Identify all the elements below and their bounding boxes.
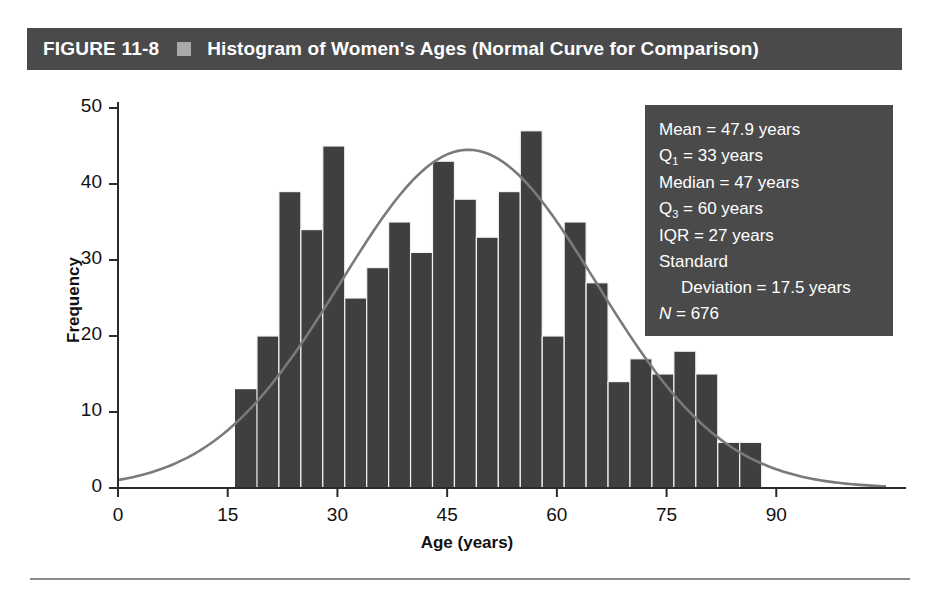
histogram-bar <box>520 131 542 488</box>
stat-n: N = 676 <box>659 301 893 327</box>
histogram-bar <box>389 222 411 488</box>
histogram-bar <box>542 336 564 488</box>
histogram-bar <box>433 161 455 488</box>
histogram-bar <box>411 252 433 488</box>
stat-standard: Standard <box>659 249 893 275</box>
x-axis-tick-label: 75 <box>647 504 687 526</box>
histogram-bar <box>608 382 630 488</box>
figure-title: Histogram of Women's Ages (Normal Curve … <box>207 38 759 60</box>
stat-mean: Mean = 47.9 years <box>659 117 893 143</box>
histogram-bar <box>345 298 367 488</box>
x-axis-tick-label: 45 <box>427 504 467 526</box>
figure-container: FIGURE 11-8 Histogram of Women's Ages (N… <box>0 0 934 596</box>
x-axis-tick-label: 90 <box>756 504 796 526</box>
stat-median: Median = 47 years <box>659 170 893 196</box>
y-axis-tick-label: 20 <box>58 323 102 345</box>
stat-q1-value: = 33 years <box>678 146 763 165</box>
stat-q3-value: = 60 years <box>678 199 763 218</box>
histogram-bar <box>630 359 652 488</box>
histogram-bar <box>498 192 520 488</box>
histogram-bar <box>257 336 279 488</box>
histogram-bar <box>323 146 345 488</box>
histogram-bar <box>301 230 323 488</box>
histogram-bar <box>586 283 608 488</box>
figure-number: FIGURE 11-8 <box>43 38 159 60</box>
figure-header: FIGURE 11-8 Histogram of Women's Ages (N… <box>27 28 902 70</box>
histogram-bar <box>476 237 498 488</box>
histogram-bar <box>454 199 476 488</box>
histogram-bar <box>740 442 762 488</box>
footer-divider <box>30 578 910 580</box>
y-axis-tick-label: 30 <box>58 247 102 269</box>
x-axis-tick-label: 0 <box>98 504 138 526</box>
y-axis-tick-label: 10 <box>58 399 102 421</box>
y-axis-tick-label: 0 <box>58 475 102 497</box>
stat-deviation: Deviation = 17.5 years <box>659 275 893 301</box>
x-axis-tick-label: 30 <box>317 504 357 526</box>
histogram-bar <box>696 374 718 488</box>
stat-iqr: IQR = 27 years <box>659 223 893 249</box>
histogram-bar <box>674 351 696 488</box>
stat-q3-symbol: Q <box>659 199 672 218</box>
x-axis-tick-label: 60 <box>537 504 577 526</box>
histogram-bar <box>279 192 301 488</box>
stat-q3: Q3 = 60 years <box>659 196 893 223</box>
stat-q1-subscript: 1 <box>672 155 678 167</box>
stat-q3-subscript: 3 <box>672 208 678 220</box>
y-axis-tick-label: 40 <box>58 171 102 193</box>
statistics-box: Mean = 47.9 years Q1 = 33 years Median =… <box>645 105 893 336</box>
histogram-bar <box>367 268 389 488</box>
gray-square-icon <box>177 42 191 56</box>
stat-n-symbol: N <box>659 304 671 323</box>
stat-q1-symbol: Q <box>659 146 672 165</box>
stat-q1: Q1 = 33 years <box>659 143 893 170</box>
y-axis-tick-label: 50 <box>58 95 102 117</box>
stat-n-value: = 676 <box>671 304 719 323</box>
x-axis-tick-label: 15 <box>208 504 248 526</box>
